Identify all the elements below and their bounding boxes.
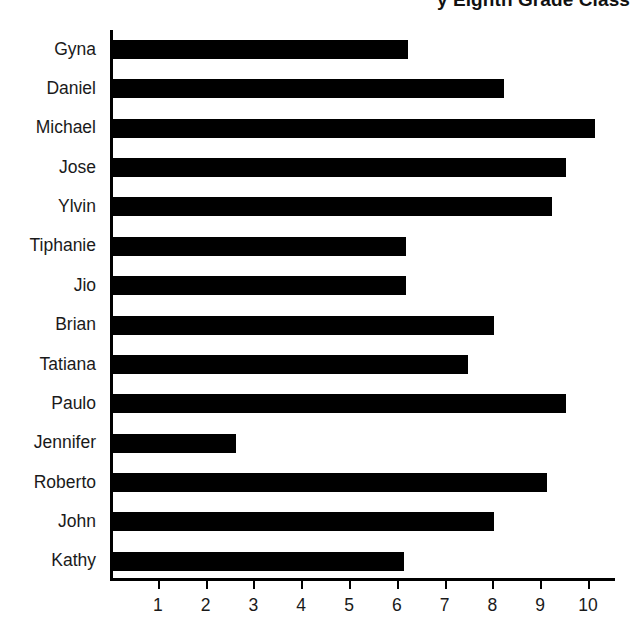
bar-row: [110, 384, 610, 423]
x-axis-tick-label: 2: [186, 594, 226, 616]
y-axis-label-jennifer: Jennifer: [0, 432, 96, 452]
x-axis-tick: [397, 578, 399, 589]
y-axis-label-paulo: Paulo: [0, 393, 96, 413]
bar-row: [110, 424, 610, 463]
bar-row: [110, 148, 610, 187]
x-axis-tick: [158, 578, 160, 589]
bar: [112, 552, 404, 571]
y-axis-label-tiphanie: Tiphanie: [0, 235, 96, 255]
bar-row: [110, 30, 610, 69]
bar-row: [110, 109, 610, 148]
bar: [112, 512, 494, 531]
bar: [112, 40, 408, 59]
plot-area: 12345678910: [110, 30, 610, 581]
x-axis-tick: [301, 578, 303, 589]
y-axis-label-jose: Jose: [0, 157, 96, 177]
bar: [112, 473, 547, 492]
bar: [112, 355, 468, 374]
x-axis-tick: [253, 578, 255, 589]
x-axis-tick-label: 7: [425, 594, 465, 616]
bar: [112, 119, 595, 138]
bar-row: [110, 345, 610, 384]
x-axis-tick-label: 3: [233, 594, 273, 616]
x-axis-tick: [588, 578, 590, 589]
y-axis-label-tatiana: Tatiana: [0, 354, 96, 374]
chart-title: y Eighth Grade Class: [0, 0, 644, 12]
x-axis-tick: [206, 578, 208, 589]
bar: [112, 197, 552, 216]
bar-row: [110, 463, 610, 502]
bar: [112, 237, 406, 256]
x-axis-tick-label: 5: [329, 594, 369, 616]
x-axis-tick-label: 9: [520, 594, 560, 616]
y-axis-label-gyna: Gyna: [0, 39, 96, 59]
x-axis-tick: [540, 578, 542, 589]
bar-row: [110, 227, 610, 266]
bar-row: [110, 502, 610, 541]
bar-row: [110, 187, 610, 226]
x-axis-tick-label: 8: [472, 594, 512, 616]
y-axis-label-michael: Michael: [0, 117, 96, 137]
bar: [112, 276, 406, 295]
x-axis-tick: [349, 578, 351, 589]
bar-row: [110, 542, 610, 581]
bar-chart: y Eighth Grade Class GynaDanielMichaelJo…: [0, 0, 644, 641]
x-axis-tick: [445, 578, 447, 589]
bar-row: [110, 69, 610, 108]
x-axis-tick-label: 4: [281, 594, 321, 616]
y-axis-label-daniel: Daniel: [0, 78, 96, 98]
x-axis-tick: [492, 578, 494, 589]
y-axis-label-john: John: [0, 511, 96, 531]
bar: [112, 158, 566, 177]
y-axis-label-brian: Brian: [0, 314, 96, 334]
x-axis-tick-label: 1: [138, 594, 178, 616]
y-axis-label-ylvin: Ylvin: [0, 196, 96, 216]
bar: [112, 434, 236, 453]
bar: [112, 316, 494, 335]
y-axis-label-jio: Jio: [0, 275, 96, 295]
bar-row: [110, 306, 610, 345]
x-axis-tick-label: 10: [568, 594, 608, 616]
bar: [112, 394, 566, 413]
y-axis-label-kathy: Kathy: [0, 550, 96, 570]
bar: [112, 79, 504, 98]
bar-row: [110, 266, 610, 305]
y-axis-label-roberto: Roberto: [0, 472, 96, 492]
x-axis-tick-label: 6: [377, 594, 417, 616]
